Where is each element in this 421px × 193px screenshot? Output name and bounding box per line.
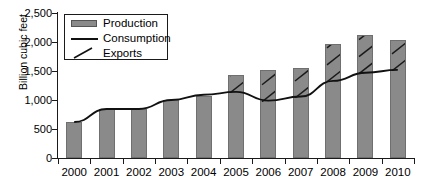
x-tick-label: 2010	[380, 166, 416, 178]
y-tick-label: 2,000	[10, 37, 52, 48]
x-tick-mark	[155, 159, 156, 164]
x-tick-label: 2002	[121, 166, 157, 178]
y-tick-label: 1,500	[10, 66, 52, 77]
x-tick-mark	[90, 159, 91, 164]
bar-production	[228, 75, 244, 158]
y-axis-line	[57, 12, 58, 159]
bar-production	[196, 96, 212, 158]
x-tick-mark	[317, 159, 318, 164]
bar-production	[260, 70, 276, 158]
line-icon	[71, 38, 98, 40]
y-axis-tick-labels: 2,500 2,000 1,500 1,000 500 0	[8, 0, 52, 193]
chart-legend: Production Consumption Exports	[64, 14, 168, 60]
bar-production	[163, 100, 179, 158]
x-tick-label: 2008	[315, 166, 351, 178]
x-tick-label: 2006	[250, 166, 286, 178]
x-tick-label: 2003	[153, 166, 189, 178]
y-tick-label: 0	[10, 153, 52, 164]
diagonal-slash-icon	[71, 47, 98, 60]
x-tick-mark	[349, 159, 350, 164]
x-tick-label: 2009	[347, 166, 383, 178]
x-tick-mark	[220, 159, 221, 164]
x-tick-label: 2001	[89, 166, 125, 178]
legend-label: Consumption	[103, 31, 171, 45]
bar-production	[131, 109, 147, 158]
legend-item-exports: Exports	[65, 46, 167, 60]
x-tick-mark	[252, 159, 253, 164]
x-tick-label: 2005	[218, 166, 254, 178]
legend-item-consumption: Consumption	[65, 31, 167, 45]
x-tick-mark	[382, 159, 383, 164]
x-tick-mark	[123, 159, 124, 164]
x-tick-mark	[187, 159, 188, 164]
bar-production	[293, 68, 309, 158]
y-tick-label: 1,000	[10, 95, 52, 106]
bar-production	[66, 122, 82, 158]
x-tick-mark	[285, 159, 286, 164]
bar-production	[325, 44, 341, 158]
y-tick-label: 2,500	[10, 8, 52, 19]
legend-item-production: Production	[65, 16, 167, 30]
x-tick-label: 2004	[186, 166, 222, 178]
x-tick-label: 2007	[283, 166, 319, 178]
x-tick-mark	[414, 159, 415, 164]
bar-production	[390, 40, 406, 158]
bar-production	[357, 35, 373, 158]
legend-label: Exports	[103, 46, 142, 60]
bar-production	[99, 109, 115, 158]
x-axis-line	[57, 158, 415, 159]
filled-swatch-icon	[71, 20, 97, 27]
chart-container: Billion cubic feet 2,500 2,000 1,500 1,0…	[0, 0, 421, 193]
legend-label: Production	[103, 16, 158, 30]
y-tick-label: 500	[10, 124, 52, 135]
x-tick-mark	[58, 159, 59, 164]
x-tick-label: 2000	[56, 166, 92, 178]
